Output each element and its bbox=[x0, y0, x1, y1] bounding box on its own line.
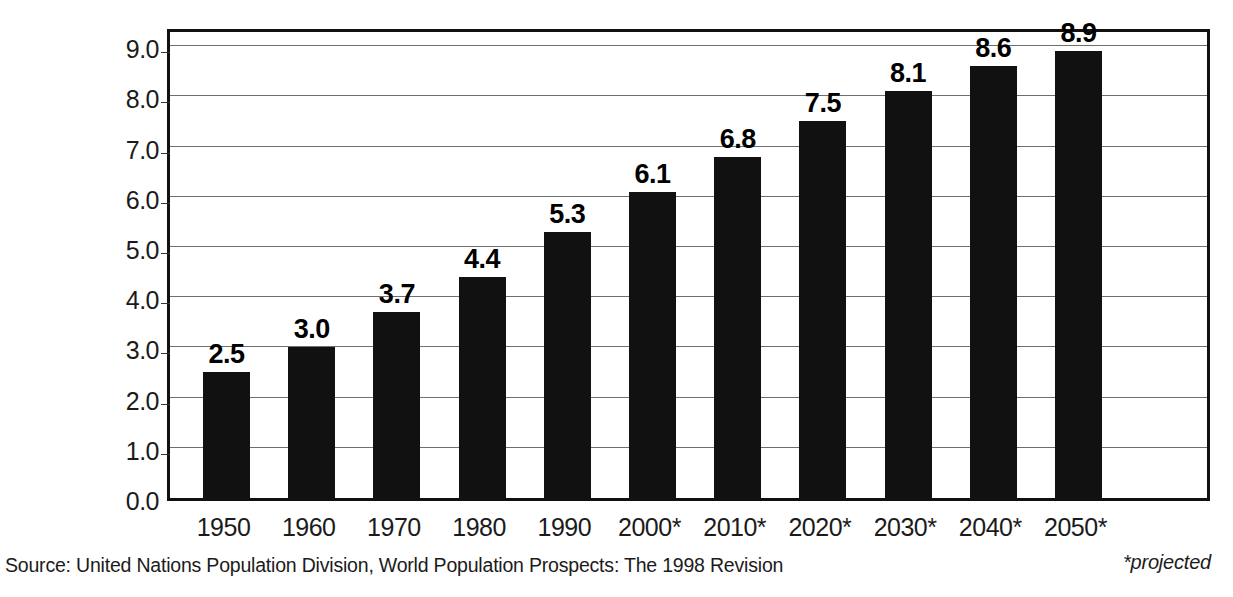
projected-note: *projected bbox=[1123, 551, 1211, 574]
bar-value-label: 6.8 bbox=[700, 124, 775, 155]
bar bbox=[288, 347, 335, 498]
y-tick-label: 6.0 bbox=[95, 185, 159, 214]
x-tick-label: 2030* bbox=[860, 513, 951, 542]
y-tick-mark bbox=[161, 353, 170, 354]
x-tick-label: 2050* bbox=[1030, 513, 1121, 542]
y-tick-label: 2.0 bbox=[95, 386, 159, 415]
x-tick-label: 1960 bbox=[263, 513, 354, 542]
bar-value-label: 2.5 bbox=[189, 339, 264, 370]
y-tick-mark bbox=[161, 52, 170, 53]
bar bbox=[970, 66, 1017, 498]
bar bbox=[203, 372, 250, 498]
bar bbox=[459, 277, 506, 498]
bar-value-label: 6.1 bbox=[615, 159, 690, 190]
bar bbox=[714, 157, 761, 498]
y-tick-mark bbox=[161, 253, 170, 254]
bar-value-label: 3.0 bbox=[274, 314, 349, 345]
y-tick-label: 1.0 bbox=[95, 436, 159, 465]
bar-value-label: 8.1 bbox=[871, 58, 946, 89]
gridline bbox=[170, 95, 1207, 96]
bar bbox=[544, 232, 591, 498]
bar-value-label: 5.3 bbox=[530, 199, 605, 230]
x-tick-label: 1970 bbox=[348, 513, 439, 542]
y-tick-mark bbox=[161, 102, 170, 103]
y-tick-mark bbox=[161, 153, 170, 154]
y-tick-label: 3.0 bbox=[95, 336, 159, 365]
y-tick-label: 4.0 bbox=[95, 286, 159, 315]
x-tick-label: 1980 bbox=[434, 513, 525, 542]
bar bbox=[885, 91, 932, 498]
x-tick-label: 1990 bbox=[519, 513, 610, 542]
gridline bbox=[170, 146, 1207, 147]
y-tick-mark bbox=[161, 203, 170, 204]
source-note: Source: United Nations Population Divisi… bbox=[5, 554, 783, 577]
x-tick-label: 2040* bbox=[945, 513, 1036, 542]
gridline bbox=[170, 296, 1207, 297]
y-tick-label: 8.0 bbox=[95, 85, 159, 114]
bar bbox=[629, 192, 676, 498]
y-tick-label: 9.0 bbox=[95, 35, 159, 64]
x-tick-label: 1950 bbox=[178, 513, 269, 542]
x-tick-label: 2000* bbox=[604, 513, 695, 542]
chart-plot-area: 2.53.03.74.45.36.16.87.58.18.68.9 bbox=[167, 29, 1210, 501]
y-axis: 0.01.02.03.04.05.06.07.08.09.0 bbox=[95, 29, 159, 501]
bar bbox=[799, 121, 846, 498]
x-tick-label: 2020* bbox=[774, 513, 865, 542]
y-tick-mark bbox=[161, 303, 170, 304]
y-tick-mark bbox=[161, 404, 170, 405]
bar-value-label: 8.6 bbox=[956, 33, 1031, 64]
bar bbox=[373, 312, 420, 498]
gridline bbox=[170, 196, 1207, 197]
chart-page: 0.01.02.03.04.05.06.07.08.09.0 2.53.03.7… bbox=[0, 0, 1233, 597]
bar bbox=[1055, 51, 1102, 498]
x-tick-label: 2010* bbox=[689, 513, 780, 542]
y-tick-label: 0.0 bbox=[95, 487, 159, 516]
bar-value-label: 7.5 bbox=[785, 88, 860, 119]
y-tick-label: 5.0 bbox=[95, 235, 159, 264]
bar-value-label: 4.4 bbox=[445, 244, 520, 275]
y-tick-label: 7.0 bbox=[95, 135, 159, 164]
plot-frame: 2.53.03.74.45.36.16.87.58.18.68.9 bbox=[167, 29, 1210, 501]
gridline bbox=[170, 246, 1207, 247]
y-tick-mark bbox=[161, 454, 170, 455]
bar-value-label: 3.7 bbox=[359, 279, 434, 310]
bar-value-label: 8.9 bbox=[1041, 18, 1116, 49]
